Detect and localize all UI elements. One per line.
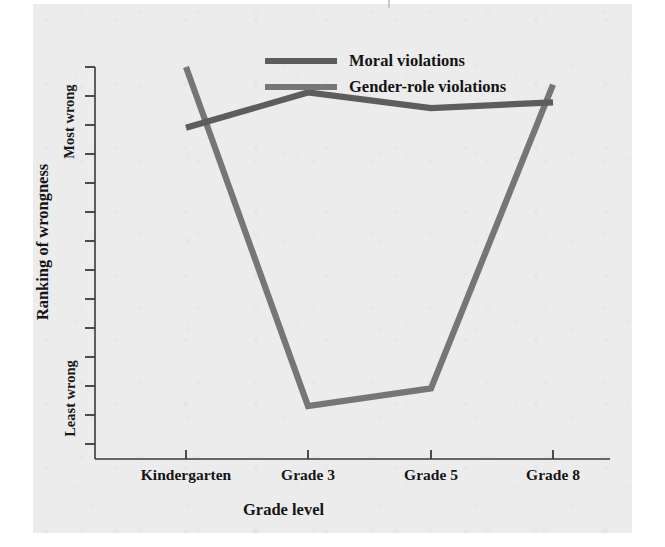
x-tick-label-grade-3: Grade 3 xyxy=(281,466,335,484)
legend-label-gender-role-violations: Gender-role violations xyxy=(349,77,506,97)
x-axis-title: Grade level xyxy=(243,500,324,520)
legend-swatch-gender-role-violations xyxy=(265,84,337,90)
legend-item-gender-role-violations: Gender-role violations xyxy=(265,74,565,100)
legend-swatch-moral-violations xyxy=(265,58,337,64)
chart-legend: Moral violations Gender-role violations xyxy=(265,48,565,100)
figure-container: Ranking of wrongness Grade level Most wr… xyxy=(0,0,665,547)
x-axis-ticks xyxy=(186,450,553,459)
y-axis-title: Ranking of wrongness xyxy=(33,142,53,342)
series-line-gender-role-violations xyxy=(186,67,553,406)
y-tick-label-least-wrong: Least wrong xyxy=(62,339,79,459)
x-tick-label-kindergarten: Kindergarten xyxy=(141,466,231,484)
x-tick-label-grade-8: Grade 8 xyxy=(526,466,580,484)
y-tick-label-most-wrong: Most wrong xyxy=(61,67,78,177)
legend-label-moral-violations: Moral violations xyxy=(349,51,465,71)
x-tick-label-grade-5: Grade 5 xyxy=(404,466,458,484)
legend-item-moral-violations: Moral violations xyxy=(265,48,565,74)
y-axis-ticks xyxy=(85,67,95,444)
